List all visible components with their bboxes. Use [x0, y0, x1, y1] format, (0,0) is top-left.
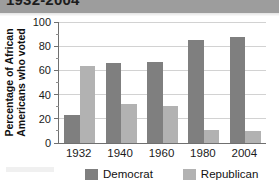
bar-group — [106, 22, 137, 143]
y-axis-tick-label: 20 — [39, 113, 51, 125]
bar-democrat[interactable] — [147, 62, 163, 143]
y-axis-minor-tick — [56, 58, 59, 59]
y-axis-tick-label: 100 — [33, 16, 51, 28]
y-axis-tick — [54, 70, 59, 71]
y-axis-tick — [54, 94, 59, 95]
x-axis-tick-label: 1980 — [190, 147, 216, 159]
legend-item-republican[interactable]: Republican — [183, 168, 259, 180]
bar-democrat[interactable] — [188, 40, 204, 143]
bar-republican[interactable] — [80, 66, 96, 143]
scan-artifact — [6, 167, 54, 172]
y-axis-title-line-1: Percentage of African — [3, 28, 15, 136]
bar-group — [64, 22, 95, 143]
legend-label-democrat: Democrat — [103, 168, 153, 180]
y-axis-minor-tick — [56, 106, 59, 107]
y-axis-tick-label: 80 — [39, 40, 51, 52]
plot-area: 020406080100 — [58, 22, 266, 144]
y-axis-tick-label: 40 — [39, 89, 51, 101]
bar-democrat[interactable] — [230, 37, 246, 143]
legend-swatch-democrat-icon — [85, 169, 98, 180]
y-axis-tick — [54, 143, 59, 144]
bar-group — [230, 22, 261, 143]
bar-democrat[interactable] — [64, 115, 80, 143]
y-axis-tick-label: 60 — [39, 64, 51, 76]
bar-democrat[interactable] — [106, 63, 122, 143]
x-axis-tick-label: 2004 — [232, 147, 258, 159]
bar-republican[interactable] — [121, 104, 137, 143]
y-axis-tick — [54, 118, 59, 119]
bar-republican[interactable] — [163, 106, 179, 144]
y-axis-title-line-2: Americans who voted — [15, 28, 27, 137]
y-axis-title: Percentage of African Americans who vote… — [0, 22, 32, 143]
y-axis-tick — [54, 22, 59, 23]
legend-item-democrat[interactable]: Democrat — [85, 168, 153, 180]
bar-republican[interactable] — [245, 131, 261, 143]
bar-republican[interactable] — [204, 130, 220, 143]
y-axis-minor-tick — [56, 130, 59, 131]
x-axis-tick-label: 1960 — [149, 147, 175, 159]
x-axis-tick-label: 1940 — [107, 147, 133, 159]
y-axis-tick — [54, 46, 59, 47]
y-axis-minor-tick — [56, 82, 59, 83]
chart-figure: 1932-2004 Percentage of African American… — [0, 0, 279, 188]
chart-legend: Democrat Republican — [58, 166, 268, 182]
y-axis-tick-label: 0 — [45, 137, 51, 149]
legend-swatch-republican-icon — [183, 169, 196, 180]
chart-title: 1932-2004 — [6, 0, 80, 8]
y-axis-minor-tick — [56, 34, 59, 35]
legend-label-republican: Republican — [201, 168, 259, 180]
bar-group — [147, 22, 178, 143]
bar-group — [188, 22, 219, 143]
x-axis-tick-label: 1932 — [66, 147, 92, 159]
chart-header-band: 1932-2004 — [0, 0, 279, 13]
